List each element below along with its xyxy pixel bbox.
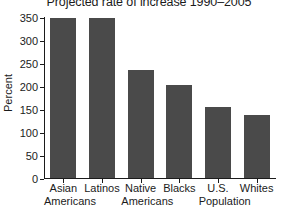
chart-title: Projected rate of increase 1990–2005 — [0, 0, 298, 9]
bar — [128, 70, 154, 178]
y-axis-line — [44, 17, 45, 179]
x-tick-label-line1: U.S. — [199, 182, 238, 195]
y-tick-label: 300 — [20, 35, 38, 47]
y-tick-mark — [40, 87, 44, 88]
y-tick-mark — [40, 110, 44, 111]
y-tick-label: 250 — [20, 58, 38, 70]
y-tick-mark — [40, 179, 44, 180]
x-tick-label: AsianAmericans — [44, 182, 83, 207]
y-tick-mark — [40, 18, 44, 19]
x-tick-label-line1: Whites — [237, 182, 276, 195]
x-tick-label: Latinos — [83, 182, 122, 207]
x-tick-label: U.S.Population — [199, 182, 238, 207]
x-tick-label-line1: Asian — [44, 182, 83, 195]
bar — [244, 115, 270, 178]
x-tick-label-line1: Native — [121, 182, 160, 195]
x-tick-label: Blacks — [160, 182, 199, 207]
y-tick-label: 0 — [32, 173, 38, 185]
y-tick-label: 150 — [20, 104, 38, 116]
x-tick-label-line2: Americans — [44, 195, 83, 208]
x-axis-category-labels: AsianAmericansLatinos NativeAmericansBla… — [44, 182, 276, 212]
x-tick-label: Whites — [237, 182, 276, 207]
plot-area: 050100150200250300350 — [44, 17, 276, 179]
y-tick-mark — [40, 156, 44, 157]
y-axis-label: Percent — [2, 58, 14, 128]
y-tick-label: 50 — [26, 150, 38, 162]
y-tick-mark — [40, 41, 44, 42]
bar-chart-figure: Projected rate of increase 1990–2005 Per… — [0, 0, 298, 212]
y-tick-label: 100 — [20, 127, 38, 139]
x-tick-label-line1: Latinos — [83, 182, 122, 195]
x-tick-label: NativeAmericans — [121, 182, 160, 207]
y-tick-label: 200 — [20, 81, 38, 93]
bar — [205, 107, 231, 178]
y-tick-mark — [40, 64, 44, 65]
y-tick-label: 350 — [20, 12, 38, 24]
y-tick-mark — [40, 133, 44, 134]
x-axis-line — [44, 178, 276, 179]
x-tick-label-line2: Population — [199, 195, 238, 208]
x-tick-label-line2: Americans — [121, 195, 160, 208]
bar — [166, 85, 192, 178]
bar — [89, 18, 115, 178]
x-tick-label-line1: Blacks — [160, 182, 199, 195]
bar — [50, 18, 76, 178]
